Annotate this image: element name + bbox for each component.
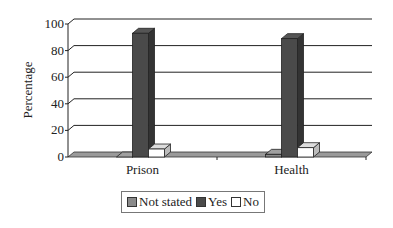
x-category-label: Prison bbox=[126, 162, 160, 177]
legend-label: No bbox=[243, 194, 259, 210]
bar-chart: 020406080100 PrisonHealth Percentage bbox=[0, 0, 393, 190]
bar-prison-no bbox=[149, 144, 171, 157]
legend-item-yes: Yes bbox=[196, 194, 227, 210]
bars bbox=[117, 28, 367, 160]
y-tick-label: 80 bbox=[51, 43, 64, 58]
y-tick-label: 20 bbox=[51, 122, 64, 137]
y-tick-label: 60 bbox=[51, 69, 64, 84]
legend: Not statedYesNo bbox=[121, 191, 265, 213]
legend-item-not-stated: Not stated bbox=[127, 194, 192, 210]
legend-item-no: No bbox=[231, 194, 259, 210]
bar-health-yes bbox=[282, 34, 304, 157]
legend-swatch-icon bbox=[196, 197, 206, 207]
y-tick-label: 40 bbox=[51, 96, 64, 111]
legend-label: Yes bbox=[208, 194, 227, 210]
x-category-label: Health bbox=[274, 162, 309, 177]
bar-health-no bbox=[298, 143, 320, 157]
y-axis: 020406080100 bbox=[45, 16, 69, 164]
legend-swatch-icon bbox=[127, 197, 137, 207]
y-tick-label: 0 bbox=[58, 149, 65, 164]
legend-label: Not stated bbox=[139, 194, 192, 210]
bar-prison-yes bbox=[133, 28, 155, 157]
y-tick-label: 100 bbox=[45, 16, 65, 31]
x-axis-labels: PrisonHealth bbox=[126, 162, 309, 177]
y-axis-label: Percentage bbox=[20, 61, 35, 118]
legend-swatch-icon bbox=[231, 197, 241, 207]
gridlines bbox=[68, 19, 372, 157]
